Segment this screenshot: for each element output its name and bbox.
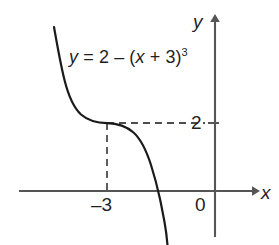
x-axis <box>19 186 260 196</box>
y-axis <box>210 14 220 237</box>
equation-variable: x <box>135 47 144 67</box>
y-axis-arrowhead <box>210 14 220 22</box>
equation-label: y = 2 – (x + 3)3 <box>69 47 188 66</box>
x-axis-arrowhead <box>252 186 260 196</box>
axis-label-y: y <box>193 12 203 31</box>
equation-minus: – ( <box>114 47 135 67</box>
plot-canvas <box>0 0 279 245</box>
equation-equals: = 2 <box>78 47 114 67</box>
tick-label-origin: 0 <box>195 195 206 214</box>
equation-exponent: 3 <box>182 46 188 58</box>
axis-label-x: x <box>261 183 271 202</box>
tick-label-x-minus-3: –3 <box>91 195 112 214</box>
graph-figure: y x 0 2 –3 y = 2 – (x + 3)3 <box>0 0 279 245</box>
equation-lhs: y <box>69 47 78 67</box>
tick-label-y-2: 2 <box>191 113 202 132</box>
equation-plus-three: + 3) <box>145 47 182 67</box>
